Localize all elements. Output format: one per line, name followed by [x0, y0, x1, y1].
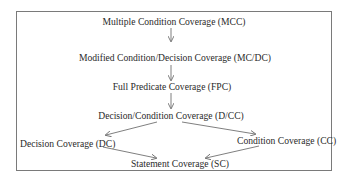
node-dcc: Decision/Condition Coverage (D/CC): [98, 110, 244, 121]
arrow-dcc-to-cc: [182, 122, 255, 134]
node-sc: Statement Coverage (SC): [131, 158, 229, 169]
arrow-cc-to-sc: [206, 146, 259, 158]
node-dc: Decision Coverage (DC): [20, 138, 115, 149]
node-mcdc: Modified Condition/Decision Coverage (MC…: [79, 52, 271, 63]
node-fpc: Full Predicate Coverage (FPC): [113, 81, 232, 92]
arrow-dcc-to-dc: [106, 122, 157, 135]
node-mcc: Multiple Condition Coverage (MCC): [102, 16, 245, 27]
node-cc: Condition Coverage (CC): [237, 135, 336, 146]
